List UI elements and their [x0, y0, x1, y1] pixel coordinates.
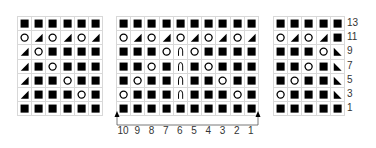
- chart-cell: [245, 17, 259, 31]
- chart-cell: [288, 17, 302, 31]
- knit-square-icon: [89, 74, 102, 87]
- knit-square-icon: [274, 102, 287, 115]
- row-label: 1: [347, 101, 353, 115]
- knit-square-icon: [231, 17, 244, 30]
- double-decrease-arch-icon: [174, 60, 187, 73]
- knit-square-icon: [188, 60, 201, 73]
- chart-cell: [46, 31, 60, 45]
- chart-cell: [89, 31, 103, 45]
- knit-square-icon: [61, 60, 74, 73]
- chart-cell: [202, 17, 216, 31]
- k2tog-triangle-icon: [18, 88, 31, 101]
- chart-cell: [145, 17, 159, 31]
- col-label: 7: [159, 125, 173, 136]
- knit-square-icon: [331, 17, 344, 30]
- chart-cell: [202, 74, 216, 88]
- chart-cell: [288, 102, 302, 116]
- chart-cell: [317, 102, 331, 116]
- chart-cell: [32, 45, 46, 59]
- knit-square-icon: [202, 74, 215, 87]
- chart-cell: [274, 88, 288, 102]
- chart-cell: [274, 31, 288, 45]
- knit-square-icon: [317, 74, 330, 87]
- yarn-over-circle-icon: [202, 31, 215, 44]
- chart-cell: [274, 17, 288, 31]
- knit-square-icon: [75, 60, 88, 73]
- chart-right: [273, 16, 345, 116]
- chart-cell: [61, 31, 75, 45]
- yarn-over-circle-icon: [75, 31, 88, 44]
- chart-cell: [32, 74, 46, 88]
- k2tog-triangle-icon: [245, 31, 258, 44]
- chart-cell: [231, 45, 245, 59]
- chart-cell: [75, 88, 89, 102]
- chart-cell: [202, 88, 216, 102]
- chart-cell: [174, 17, 188, 31]
- chart-cell: [302, 31, 316, 45]
- k2tog-triangle-icon: [89, 31, 102, 44]
- chart-cell: [46, 60, 60, 74]
- knit-square-icon: [288, 60, 301, 73]
- knit-square-icon: [61, 102, 74, 115]
- knit-square-icon: [317, 17, 330, 30]
- chart-cell: [302, 74, 316, 88]
- chart-cell: [302, 88, 316, 102]
- chart-cell: [117, 74, 131, 88]
- chart-cell: [331, 74, 345, 88]
- column-number-labels: 10 9 8 7 6 5 4 3 2 1: [116, 125, 259, 139]
- knit-square-icon: [75, 74, 88, 87]
- knit-square-icon: [188, 88, 201, 101]
- yarn-over-circle-icon: [216, 74, 229, 87]
- chart-cell: [131, 17, 145, 31]
- knit-square-icon: [75, 45, 88, 58]
- knit-square-icon: [32, 17, 45, 30]
- chart-cell: [131, 60, 145, 74]
- chart-cell: [18, 31, 32, 45]
- chart-cell: [174, 31, 188, 45]
- chart-cell: [216, 74, 230, 88]
- chart-cell: [202, 60, 216, 74]
- chart-cell: [75, 102, 89, 116]
- ssk-triangle-icon: [331, 60, 344, 73]
- knit-square-icon: [145, 17, 158, 30]
- knit-square-icon: [61, 45, 74, 58]
- chart-cell: [288, 45, 302, 59]
- chart-cell: [131, 88, 145, 102]
- yarn-over-circle-icon: [174, 31, 187, 44]
- chart-cell: [317, 74, 331, 88]
- knit-square-icon: [317, 60, 330, 73]
- chart-cell: [18, 102, 32, 116]
- yarn-over-circle-icon: [288, 74, 301, 87]
- chart-cell: [174, 88, 188, 102]
- chart-cell: [216, 17, 230, 31]
- chart-cell: [317, 45, 331, 59]
- row-label: 13: [347, 16, 358, 30]
- k2tog-triangle-icon: [131, 31, 144, 44]
- knit-square-icon: [89, 102, 102, 115]
- chart-cell: [288, 74, 302, 88]
- chart-cell: [160, 74, 174, 88]
- chart-cell: [245, 45, 259, 59]
- chart-cell: [274, 45, 288, 59]
- knit-square-icon: [18, 17, 31, 30]
- chart-cell: [117, 60, 131, 74]
- knit-square-icon: [317, 88, 330, 101]
- knit-square-icon: [216, 45, 229, 58]
- knit-square-icon: [117, 60, 130, 73]
- chart-cell: [231, 60, 245, 74]
- chart-cell: [245, 60, 259, 74]
- chart-cell: [61, 88, 75, 102]
- knit-square-icon: [46, 45, 59, 58]
- chart-cell: [32, 17, 46, 31]
- yarn-over-circle-icon: [231, 88, 244, 101]
- knit-square-icon: [75, 17, 88, 30]
- k2tog-triangle-icon: [160, 31, 173, 44]
- knit-square-icon: [174, 17, 187, 30]
- knit-square-icon: [302, 88, 315, 101]
- ssk-triangle-icon: [331, 88, 344, 101]
- chart-cell: [117, 45, 131, 59]
- ssk-triangle-icon: [331, 74, 344, 87]
- chart-cell: [75, 74, 89, 88]
- chart-cell: [231, 74, 245, 88]
- chart-cell: [75, 45, 89, 59]
